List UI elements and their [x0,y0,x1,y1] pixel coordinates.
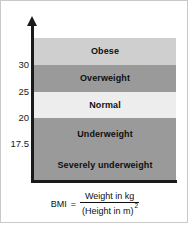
band-severely-underweight-label: Severely underweight [57,160,152,170]
band-overweight-label: Overweight [80,73,130,83]
band-obese-label: Obese [91,46,119,56]
y-tick-25-text: 25 [18,86,29,97]
y-tick-30-text: 30 [18,59,29,70]
band-normal: Normal [34,92,176,118]
formula-fraction: Weight in kg (Height in m)2 [80,191,139,217]
band-underweight: Underweight [34,118,176,149]
bmi-category-figure: 30 25 20 17.5 Obese Overweight Normal Un… [0,0,188,223]
x-axis-line [31,180,177,183]
bmi-formula: BMI = Weight in kg (Height in m)2 [1,191,189,217]
y-tick-20-text: 20 [18,112,29,123]
y-tick-30: 30 [3,59,29,70]
y-tick-17-5-text: 17.5 [11,138,30,149]
y-tick-20: 20 [3,112,29,123]
band-underweight-label: Underweight [77,129,133,139]
y-tick-17-5: 17.5 [3,138,29,149]
formula-denominator-wrap: (Height in m)2 [80,203,139,216]
formula-denominator: (Height in m) [82,206,134,216]
formula-lhs: BMI [51,199,67,209]
band-obese: Obese [34,38,176,65]
bmi-bands: Obese Overweight Normal Underweight Seve… [34,38,176,180]
formula-exponent: 2 [135,202,139,209]
formula-equals-sign: = [71,199,76,209]
band-severely-underweight: Severely underweight [34,149,176,180]
band-overweight: Overweight [34,65,176,92]
y-tick-25: 25 [3,86,29,97]
band-normal-label: Normal [89,100,121,110]
formula-numerator: Weight in kg [83,191,136,202]
